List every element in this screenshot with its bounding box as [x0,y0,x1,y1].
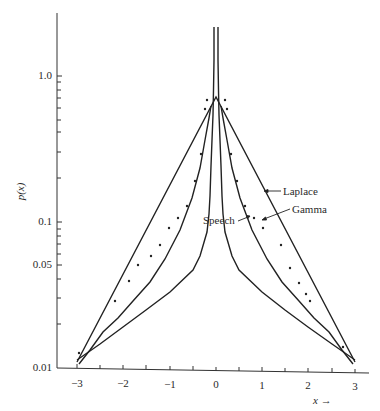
x-tick-0: 0 [206,379,226,390]
x-tick-neg1: −1 [160,379,180,390]
y-tick-0.05: 0.05 [12,259,52,270]
y-axis-label: p(x) [15,183,26,201]
x-tick-neg3: −3 [67,378,87,389]
x-tick-3: 3 [345,381,365,392]
laplace-curve [77,97,355,362]
speech-label: Speech [203,215,235,226]
x-axis [57,364,369,373]
arrow-right-icon: → [321,394,332,406]
x-axis-label-text: x [313,394,318,406]
x-axis-label: x → [313,395,332,406]
x-tick-1: 1 [252,380,272,391]
x-tick-neg2: −2 [113,378,133,389]
y-tick-0.01: 0.01 [12,362,52,373]
gamma-label: Gamma [292,204,327,215]
speech-data-points [78,99,344,354]
y-axis [57,13,62,368]
x-tick-2: 2 [298,380,318,391]
y-tick-1.0: 1.0 [12,70,52,81]
y-tick-0.1: 0.1 [12,216,52,227]
laplace-label: Laplace [283,186,318,197]
